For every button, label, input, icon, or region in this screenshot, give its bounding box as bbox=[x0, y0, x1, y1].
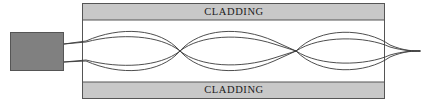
light-source-block bbox=[11, 33, 64, 71]
top-cladding-label: CLADDING bbox=[204, 6, 264, 17]
bottom-cladding-band: CLADDING bbox=[83, 82, 385, 99]
top-cladding-band: CLADDING bbox=[83, 4, 385, 21]
waveguide-figure: CLADDING CLADDING bbox=[0, 0, 428, 104]
bottom-cladding-label: CLADDING bbox=[204, 84, 264, 95]
waveguide-diagram-svg: CLADDING CLADDING bbox=[0, 0, 428, 104]
